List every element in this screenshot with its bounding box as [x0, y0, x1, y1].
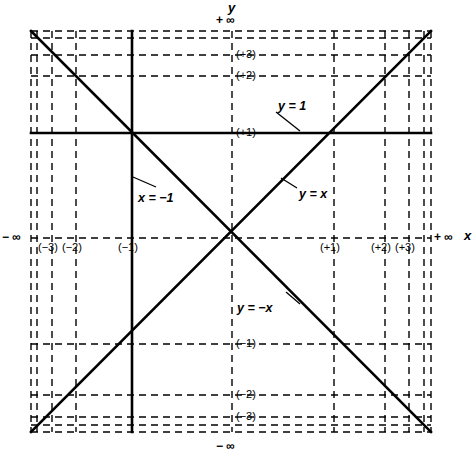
- curve-label-x-equals-m1: x = −1: [138, 192, 173, 205]
- y-tick-label-1: (+2): [236, 70, 256, 81]
- right-infinity-label: + ∞: [434, 231, 453, 243]
- leader-y-equals-x: [281, 178, 297, 188]
- x-tick-label-3: (+1): [320, 242, 340, 253]
- x-tick-label-0: (−3): [38, 242, 58, 253]
- x-axis-title: x: [464, 229, 471, 242]
- y-tick-label-2: (+1): [236, 127, 256, 138]
- y-tick-label-3: (−1): [236, 338, 256, 349]
- curve-label-y-equals-x: y = x: [299, 188, 327, 201]
- curve-label-y-equals-mx: y = −x: [237, 302, 272, 315]
- bottom-infinity-label: − ∞: [216, 440, 235, 452]
- y-tick-label-0: (+3): [236, 49, 256, 60]
- top-infinity-label: + ∞: [216, 14, 235, 26]
- leader-x-equals-m1: [133, 177, 156, 187]
- y-tick-label-4: (−2): [236, 389, 256, 400]
- x-tick-label-4: (+2): [371, 242, 391, 253]
- x-tick-label-1: (−2): [62, 242, 82, 253]
- curve-label-y-equals-1: y = 1: [278, 100, 306, 113]
- curve-lines: [31, 31, 431, 432]
- left-infinity-label: − ∞: [2, 231, 21, 243]
- x-tick-label-5: (+3): [395, 242, 415, 253]
- leader-y-equals-1: [276, 112, 300, 131]
- x-tick-label-2: (−1): [118, 242, 138, 253]
- y-tick-label-5: (−3): [236, 411, 256, 422]
- figure-canvas: y + ∞ − ∞ − ∞ + ∞ x (−3)(−2)(−1)(+1)(+2)…: [0, 0, 475, 460]
